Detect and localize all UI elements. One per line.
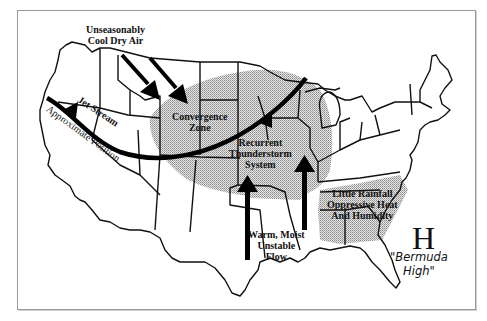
convergence-zone-label: Convergence Zone	[172, 111, 228, 133]
cool-air-line-2: Cool Dry Air	[86, 35, 145, 46]
convergence-line-2: Zone	[172, 122, 228, 133]
warm-flow-line-1: Warm, Moist	[248, 229, 305, 240]
bermuda-high-line-2: High"	[390, 264, 448, 278]
thunderstorm-label: Recurrent Thunderstorm System	[229, 137, 292, 170]
southeast-line-1: Little Rainfall	[327, 188, 398, 199]
southeast-line-3: And Humidity	[327, 210, 398, 221]
warm-flow-line-2: Unstable	[248, 240, 305, 251]
southeast-line-2: Oppressive Heat	[327, 199, 398, 210]
southeast-label: Little Rainfall Oppressive Heat And Humi…	[327, 188, 398, 221]
warm-flow-label: Warm, Moist Unstable Flow	[248, 229, 305, 262]
thunderstorm-line-2: Thunderstorm	[229, 148, 292, 159]
bermuda-high-label: "Bermuda High"	[390, 250, 448, 278]
cool-air-arrows	[122, 55, 188, 104]
warm-flow-line-3: Flow	[248, 251, 305, 262]
cool-air-label: Unseasonably Cool Dry Air	[86, 24, 145, 46]
cool-air-line-1: Unseasonably	[86, 24, 145, 35]
convergence-line-1: Convergence	[172, 111, 228, 122]
thunderstorm-line-1: Recurrent	[229, 137, 292, 148]
thunderstorm-line-3: System	[229, 159, 292, 170]
bermuda-high-line-1: "Bermuda	[390, 250, 448, 264]
